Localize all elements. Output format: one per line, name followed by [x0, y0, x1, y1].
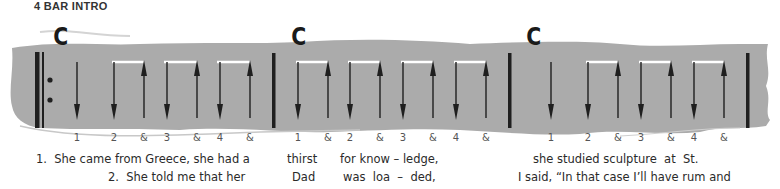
repeat-dot-upper [47, 77, 52, 82]
beat-count: & [246, 132, 254, 143]
beat-count: & [720, 132, 728, 143]
gray-band [11, 40, 770, 135]
beat-count: 1 [548, 132, 554, 143]
beat-count: & [429, 132, 437, 143]
beat-count: 4 [453, 132, 459, 143]
lyric-verse1-part1: 1. She came from Greece, she had a [36, 152, 250, 166]
beat-count: 3 [400, 132, 406, 143]
chord-symbol: C [291, 25, 306, 49]
barline-end [746, 53, 750, 128]
beat-count: 4 [691, 132, 697, 143]
lyric-verse1-part3: for know – ledge, [340, 152, 439, 166]
beat-count: & [324, 132, 332, 143]
beat-count: & [667, 132, 675, 143]
beat-count: 3 [164, 132, 170, 143]
beat-count: 2 [347, 132, 353, 143]
beat-count: & [193, 132, 201, 143]
beat-count: 2 [111, 132, 117, 143]
repeat-thick-bar [35, 52, 40, 128]
barline-1 [272, 53, 276, 128]
barline-2 [508, 53, 512, 128]
beat-count: 2 [585, 132, 591, 143]
beat-count: & [614, 132, 622, 143]
lyric-verse2-part3: was loa – ded, [343, 170, 436, 184]
lyric-verse2-part4: I said, “In that case I’ll have rum and [518, 170, 731, 184]
lyric-verse1-part4: she studied sculpture at St. [533, 152, 698, 166]
chord-symbol: C [526, 25, 541, 49]
beat-count: 1 [295, 132, 301, 143]
repeat-thin-bar [42, 52, 44, 128]
beat-count: & [376, 132, 384, 143]
beat-count: & [140, 132, 148, 143]
beat-count: & [482, 132, 490, 143]
lyric-verse2-part2: Dad [292, 170, 315, 184]
beat-count: 1 [74, 132, 80, 143]
lyric-verse2-part1: 2. She told me that her [108, 170, 245, 184]
repeat-dot-lower [47, 97, 52, 102]
beat-count: 3 [638, 132, 644, 143]
chord-symbol: C [53, 25, 68, 49]
beat-count: 4 [217, 132, 223, 143]
lyric-verse1-part2: thirst [287, 152, 317, 166]
